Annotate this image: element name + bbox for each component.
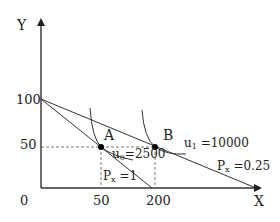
point-A bbox=[98, 144, 104, 150]
y-tick-50: 50 bbox=[20, 137, 37, 152]
consumer-choice-diagram: Y X 0 100 50 50 200 A B u0=2500 u1 =1000… bbox=[0, 0, 280, 222]
origin-label: 0 bbox=[20, 193, 28, 208]
y-axis-label: Y bbox=[16, 17, 27, 33]
px-0.25-label: Px =0.25 bbox=[217, 159, 270, 174]
point-B-label: B bbox=[163, 127, 173, 143]
x-tick-50: 50 bbox=[93, 193, 110, 208]
x-axis-label: X bbox=[254, 193, 264, 209]
x-tick-200: 200 bbox=[146, 193, 171, 208]
point-A-label: A bbox=[103, 127, 115, 143]
u0-label: u0=2500 bbox=[112, 147, 165, 162]
u1-label: u1 =10000 bbox=[184, 136, 249, 151]
px-1-label: Px =1 bbox=[103, 169, 137, 184]
y-tick-100: 100 bbox=[16, 92, 41, 107]
